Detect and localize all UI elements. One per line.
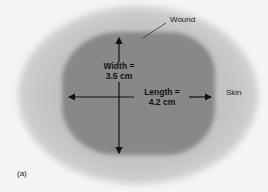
width-measurement: Width = 3.5 cm	[96, 61, 142, 81]
length-measurement: Length = 4.2 cm	[136, 87, 188, 107]
wound-label: Wound	[170, 15, 195, 24]
length-value: 4.2 cm	[136, 97, 188, 107]
length-label: Length =	[136, 87, 188, 97]
skin-label: Skin	[226, 88, 242, 97]
wound-leader-line	[143, 23, 166, 38]
panel-label: (a)	[17, 169, 27, 178]
width-label: Width =	[96, 61, 142, 71]
width-value: 3.5 cm	[96, 71, 142, 81]
wound-measurement-diagram: Wound Skin Width = 3.5 cm Length = 4.2 c…	[0, 0, 268, 192]
